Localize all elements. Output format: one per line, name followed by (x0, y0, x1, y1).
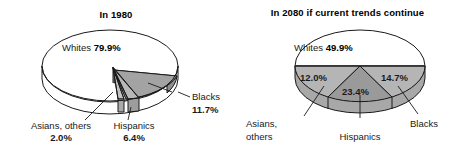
label-hispanics-2080: Hispanics (328, 131, 392, 142)
label-blacks-1980-text: Blacks (192, 91, 220, 102)
label-blacks-2080-pct: 14.7% (381, 72, 408, 83)
label-asians-2080-line2: others (246, 131, 272, 142)
label-asians-1980: Asians, others (20, 120, 102, 131)
label-blacks-2080: Blacks (410, 118, 438, 129)
label-asians-2080-pct: 12.0% (300, 72, 327, 83)
label-hispanics-2080-pct: 23.4% (342, 86, 369, 97)
pie-chart-figure: In 1980 (0, 0, 463, 150)
label-blacks-1980: Blacks (192, 91, 220, 102)
label-whites-1980-pct: 79.9% (94, 42, 121, 53)
label-whites-1980: Whites 79.9% (62, 42, 121, 53)
chart-panel-1980: In 1980 (0, 0, 232, 150)
label-hispanics-1980: Hispanics (104, 120, 164, 131)
label-whites-2080-pct: 49.9% (326, 42, 353, 53)
label-whites-2080-text: Whites (294, 42, 326, 53)
chart-panel-2080: In 2080 if current trends continue (232, 0, 463, 150)
label-asians-1980-pct: 2.0% (20, 132, 102, 143)
label-whites-2080: Whites 49.9% (294, 42, 353, 53)
label-hispanics-1980-pct: 6.4% (104, 132, 164, 143)
label-whites-1980-text: Whites (62, 42, 94, 53)
label-asians-2080-line1: Asians, (246, 118, 277, 129)
label-blacks-1980-pct: 11.7% (192, 104, 218, 115)
